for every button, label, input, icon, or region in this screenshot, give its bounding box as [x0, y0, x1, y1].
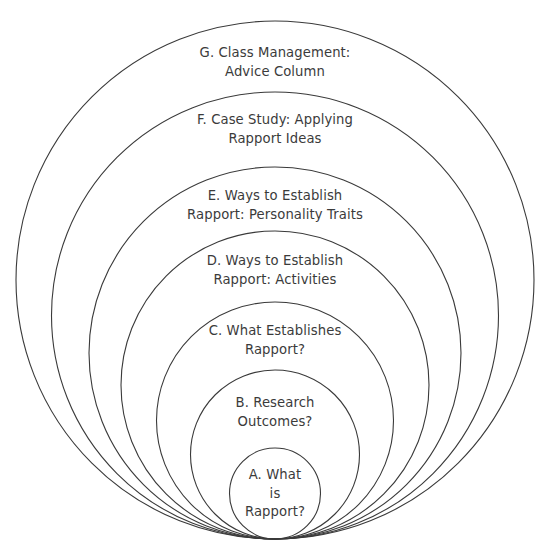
ring-circle-f: [52, 92, 499, 539]
ring-circle-g: [16, 21, 534, 539]
ring-circle-b: [191, 370, 360, 539]
nested-circles-diagram: G. Class Management: Advice ColumnF. Cas…: [0, 0, 545, 558]
circles-svg: [0, 0, 545, 558]
ring-circle-a: [230, 448, 321, 539]
ring-circle-d: [121, 231, 429, 539]
ring-circle-c: [157, 302, 394, 539]
ring-circle-e: [89, 167, 461, 539]
